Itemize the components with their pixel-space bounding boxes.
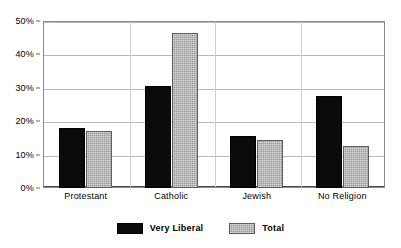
legend-label: Total xyxy=(262,223,284,233)
bar-protestant-total xyxy=(86,131,112,188)
x-axis-label-protestant: Protestant xyxy=(64,191,107,201)
y-axis-tick-mark xyxy=(36,154,40,155)
y-axis-tick-mark xyxy=(36,21,40,22)
y-axis-tick-label: 20% xyxy=(15,116,34,126)
y-axis-tick-label: 30% xyxy=(15,83,34,93)
y-axis-tick-mark xyxy=(36,121,40,122)
x-axis-label-no-religion: No Religion xyxy=(318,191,367,201)
bar-catholic-total xyxy=(172,33,198,188)
y-axis-tick-mark xyxy=(36,54,40,55)
y-axis-tick-label: 10% xyxy=(15,150,34,160)
bar-catholic-very-liberal xyxy=(145,86,171,188)
legend-swatch-icon xyxy=(229,223,255,234)
legend-item-total[interactable]: Total xyxy=(229,223,284,234)
bar-no-religion-very-liberal xyxy=(316,96,342,188)
x-axis-label-catholic: Catholic xyxy=(154,191,188,201)
legend-swatch-icon xyxy=(117,223,143,234)
x-axis-label-jewish: Jewish xyxy=(242,191,271,201)
y-axis-tick-label: 0% xyxy=(21,183,34,193)
bar-no-religion-total xyxy=(343,146,369,188)
y-axis-tick-label: 40% xyxy=(15,49,34,59)
legend-item-very-liberal[interactable]: Very Liberal xyxy=(117,223,203,234)
y-axis: 0%10%20%30%40%50% xyxy=(0,21,40,188)
bar-jewish-total xyxy=(257,140,283,188)
x-axis-labels: ProtestantCatholicJewishNo Religion xyxy=(43,191,385,209)
chart-legend: Very LiberalTotal xyxy=(0,218,401,238)
legend-label: Very Liberal xyxy=(150,223,203,233)
y-axis-tick-mark xyxy=(36,87,40,88)
bar-chart: 0%10%20%30%40%50% ProtestantCatholicJewi… xyxy=(0,0,401,248)
bars-layer xyxy=(43,21,385,188)
bar-protestant-very-liberal xyxy=(59,128,85,188)
y-axis-tick-label: 50% xyxy=(15,16,34,26)
bar-jewish-very-liberal xyxy=(230,136,256,188)
y-axis-tick-mark xyxy=(36,188,40,189)
